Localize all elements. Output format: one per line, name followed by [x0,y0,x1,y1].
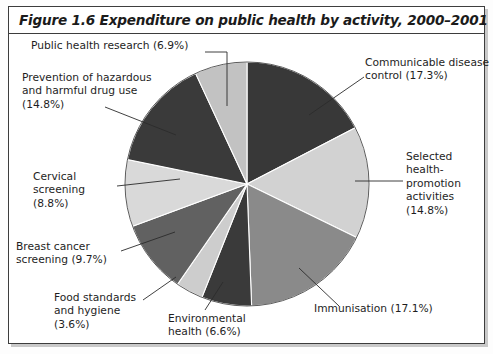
page-title: Figure 1.6 Expenditure on public health … [9,12,488,28]
label-cervical-screening: Cervical screening (8.8%) [33,170,85,210]
leader-line-food-standards [143,277,176,300]
label-selected-health-promotion: Selected health- promotion activities (1… [406,150,461,217]
label-environmental-health: Environmental health (6.6%) [168,312,246,339]
label-food-standards: Food standards and hygiene (3.6%) [54,291,136,331]
label-communicable-disease: Communicable disease control (17.3%) [365,56,489,83]
figure-title-bar: Figure 1.6 Expenditure on public health … [9,7,484,34]
label-breast-cancer-screening: Breast cancer screening (9.7%) [16,240,107,267]
label-prevention-drug-use: Prevention of hazardous and harmful drug… [22,71,152,111]
figure-screenshot: Figure 1.6 Expenditure on public health … [0,0,493,354]
label-public-health-research: Public health research (6.9%) [31,39,188,52]
label-immunisation: Immunisation (17.1%) [314,302,433,315]
